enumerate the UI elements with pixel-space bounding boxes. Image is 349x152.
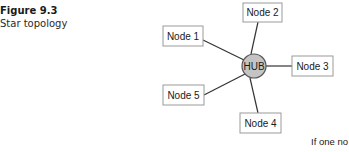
link-node-1 xyxy=(203,40,244,60)
node-5-label: Node 5 xyxy=(167,90,200,101)
node-5: Node 5 xyxy=(163,85,204,105)
node-4-label: Node 4 xyxy=(244,118,277,129)
node-1: Node 1 xyxy=(163,26,203,46)
node-2-label: Node 2 xyxy=(246,7,279,18)
node-1-label: Node 1 xyxy=(167,31,200,42)
hub: HUB xyxy=(242,54,266,78)
star-topology-diagram: Node 1 Node 2 Node 3 Node 4 Node 5 HUB xyxy=(0,0,349,152)
link-node-5 xyxy=(204,74,245,95)
body-text-fragment: If one no xyxy=(311,136,348,147)
node-4: Node 4 xyxy=(240,113,281,133)
hub-label: HUB xyxy=(243,61,264,72)
node-2: Node 2 xyxy=(243,3,282,22)
link-node-4 xyxy=(250,78,258,113)
node-3-label: Node 3 xyxy=(296,61,329,72)
link-node-2 xyxy=(251,22,258,54)
node-3: Node 3 xyxy=(292,56,333,76)
